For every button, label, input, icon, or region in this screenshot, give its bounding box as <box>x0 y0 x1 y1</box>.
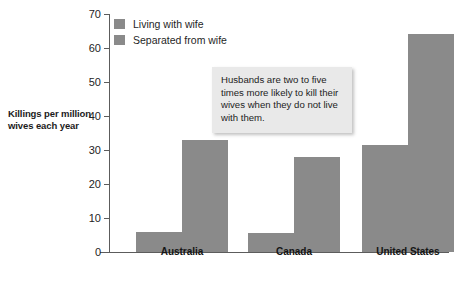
legend-label: Separated from wife <box>133 34 227 46</box>
category-label-united-states: United States <box>376 246 439 257</box>
legend-item-living-with-wife: Living with wife <box>114 17 227 31</box>
bar-australia-separated-from-wife <box>182 140 228 252</box>
y-tick-label: 60 <box>89 42 101 54</box>
y-tick-label: 20 <box>89 178 101 190</box>
y-tick-mark <box>104 218 110 219</box>
legend-swatch-separated-from-wife <box>114 35 125 45</box>
chart-legend: Living with wifeSeparated from wife <box>114 17 227 49</box>
plot-area: 010203040506070 <box>109 14 449 252</box>
annotation-text: Husbands are two to five times more like… <box>221 74 343 124</box>
y-tick-label: 40 <box>89 110 101 122</box>
y-tick-mark <box>104 150 110 151</box>
y-tick-label: 10 <box>89 212 101 224</box>
category-label-canada: Canada <box>276 246 312 257</box>
bar-chart-figure: Killings per million wives each year 010… <box>0 0 457 282</box>
y-tick-mark <box>104 116 110 117</box>
y-axis-label: Killings per million wives each year <box>8 108 92 133</box>
legend-label: Living with wife <box>133 18 204 30</box>
bar-united-states-living-with-wife <box>362 145 408 252</box>
bar-united-states-separated-from-wife <box>408 34 454 252</box>
legend-swatch-living-with-wife <box>114 19 125 29</box>
y-tick-label: 0 <box>95 246 101 258</box>
y-tick-mark <box>104 82 110 83</box>
legend-item-separated-from-wife: Separated from wife <box>114 33 227 47</box>
y-tick-mark <box>104 252 110 253</box>
y-tick-mark <box>104 184 110 185</box>
annotation-callout: Husbands are two to five times more like… <box>212 67 352 133</box>
y-tick-label: 30 <box>89 144 101 156</box>
y-tick-mark <box>104 14 110 15</box>
bar-canada-separated-from-wife <box>294 157 340 252</box>
category-label-australia: Australia <box>161 246 203 257</box>
y-axis-line <box>109 14 110 252</box>
y-tick-label: 50 <box>89 76 101 88</box>
y-tick-label: 70 <box>89 8 101 20</box>
y-tick-mark <box>104 48 110 49</box>
